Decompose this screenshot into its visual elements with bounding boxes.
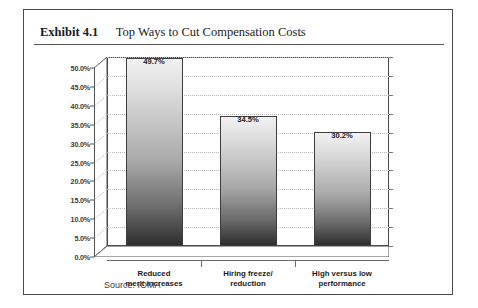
y-axis-label: 25.0% <box>71 158 90 167</box>
exhibit-header: Exhibit 4.1 Top Ways to Cut Compensation… <box>40 22 438 42</box>
y-axis-tick-right <box>389 95 393 96</box>
x-axis-line <box>107 260 389 261</box>
y-axis-tick-right <box>389 246 393 247</box>
bar-value-label: 49.7% <box>143 57 165 66</box>
y-axis-label: 0.0% <box>74 253 90 262</box>
exhibit-frame: Exhibit 4.1 Top Ways to Cut Compensation… <box>23 9 453 295</box>
y-axis-label: 50.0% <box>71 64 90 73</box>
y-axis-label: 10.0% <box>71 215 90 224</box>
y-axis-label: 5.0% <box>74 234 90 243</box>
y-axis-label: 20.0% <box>71 177 90 186</box>
y-axis-line <box>94 57 108 257</box>
bar-column <box>314 132 371 246</box>
y-axis-label: 30.0% <box>71 139 90 148</box>
y-axis-tick-right <box>389 227 393 228</box>
x-axis-category-label: Hiring freeze/reduction <box>202 269 294 288</box>
page-title: Top Ways to Cut Compensation Costs <box>116 25 306 39</box>
bar-column <box>126 58 183 246</box>
title-divider <box>34 44 444 45</box>
y-axis-label: 35.0% <box>71 120 90 129</box>
y-axis-tick-right <box>389 152 393 153</box>
bar-value-label: 30.2% <box>331 131 353 140</box>
y-axis-tick-right <box>389 57 393 58</box>
chart-floor <box>94 246 389 257</box>
bar-value-label: 34.5% <box>237 115 259 124</box>
x-axis-category-label: High versus lowperformance <box>296 269 388 288</box>
source-note: Source: IOMA <box>104 280 161 290</box>
y-axis-label: 45.0% <box>71 82 90 91</box>
y-axis-tick-right <box>389 133 393 134</box>
bar-chart: 0.0%5.0%10.0%15.0%20.0%25.0%30.0%35.0%40… <box>94 57 389 257</box>
y-axis-label: 40.0% <box>71 101 90 110</box>
y-axis-tick-right <box>389 114 393 115</box>
y-axis-tick-right <box>389 76 393 77</box>
y-axis-tick-right <box>389 189 393 190</box>
x-axis-divider <box>201 260 202 267</box>
y-axis-tick-right <box>389 170 393 171</box>
x-axis-divider <box>295 260 296 267</box>
bar-column <box>220 116 277 246</box>
y-axis-label: 15.0% <box>71 196 90 205</box>
y-axis-tick-right <box>389 208 393 209</box>
exhibit-number: Exhibit 4.1 <box>40 25 98 39</box>
